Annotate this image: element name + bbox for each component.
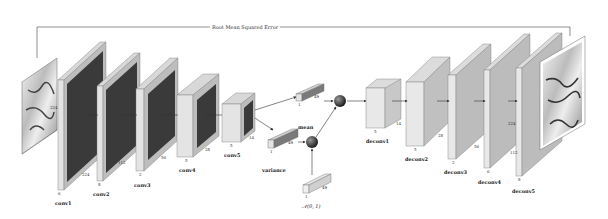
deconv4-label: deconv4 [478,179,501,185]
noise-size: 49 [322,185,327,190]
conv3-depth: 2 [139,172,142,177]
conv5-depth: 5 [230,143,233,148]
deconv5-label: deconv5 [512,188,535,194]
variance-depth: 1 [270,149,273,154]
deconv1-label: deconv1 [366,138,389,144]
deconv3-size: 56 [474,144,479,149]
conv4-size: 28 [205,147,210,152]
deconv2-depth: 5 [414,147,417,152]
variance-size: 49 [288,140,293,145]
conv4-depth: 5 [185,158,188,163]
conv1-depth: 6 [58,191,61,196]
conv4-block [177,74,219,157]
input-size: 224 [50,105,58,110]
conv3-size: 56 [161,155,166,160]
deconv2-label: deconv2 [405,156,428,162]
deconv1-depth: 5 [374,129,377,134]
conv2-size: 112 [118,160,126,165]
deconv3-label: deconv3 [444,169,467,175]
noise-label: 𝒩(0, 1) [302,203,320,210]
noise-bar [303,174,331,193]
multiply-node [306,136,318,148]
conv1-size: 224 [82,172,90,177]
conv3-label: conv3 [134,182,150,188]
conv1-label: conv1 [55,200,71,206]
mean-size: 49 [314,94,319,99]
conv5-label: conv5 [224,152,240,158]
deconv2-block [406,57,450,146]
add-node [334,95,346,107]
deconv1-size: 14 [396,121,401,126]
conv4-label: conv4 [179,167,195,173]
conv3-block [136,58,178,171]
conv5-size: 14 [249,135,254,140]
mean-bar [296,84,324,101]
architecture-diagram [0,0,608,219]
conv2-depth: 8 [98,182,101,187]
deconv5-depth: 8 [518,177,521,182]
deconv3-depth: 2 [452,160,455,165]
rmse-label: Root Mean Squared Error [210,24,280,30]
variance-bar [268,129,298,148]
deconv4-size: 112 [510,150,518,155]
output-size: 224 [508,121,516,126]
noise-depth: 1 [305,194,308,199]
mean-label: mean [298,124,313,130]
mean-depth: 1 [298,102,301,107]
variance-label: variance [262,167,286,173]
deconv4-depth: 6 [487,169,490,174]
deconv2-size: 28 [438,133,443,138]
conv2-label: conv2 [93,191,109,197]
